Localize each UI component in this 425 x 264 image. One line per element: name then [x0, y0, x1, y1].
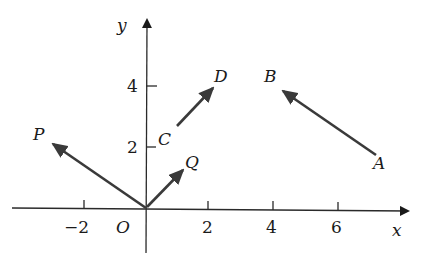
vector-diagram: −2 2 4 6 4 2 y x O P Q C D B A — [0, 0, 425, 264]
point-label-p: P — [32, 124, 45, 144]
y-axis — [146, 20, 147, 253]
vector-cd — [177, 88, 213, 126]
x-tick-label: 2 — [202, 217, 213, 237]
vector-ab — [283, 91, 376, 155]
x-tick-label: −2 — [64, 217, 89, 237]
point-label-b: B — [263, 66, 277, 86]
x-tick-label: 6 — [331, 217, 342, 237]
point-label-q: Q — [185, 152, 199, 172]
origin-label: O — [116, 217, 130, 237]
point-label-a: A — [371, 153, 385, 173]
x-axis-label: x — [392, 220, 402, 240]
point-label-c: C — [158, 129, 171, 149]
y-tick-label: 4 — [127, 76, 138, 96]
y-ticks — [146, 86, 157, 147]
x-tick-label: 4 — [266, 217, 277, 237]
y-axis-label: y — [116, 15, 127, 35]
x-axis — [12, 208, 408, 211]
point-label-d: D — [213, 66, 228, 86]
y-tick-label: 2 — [127, 137, 138, 157]
vector-oq — [147, 170, 183, 207]
